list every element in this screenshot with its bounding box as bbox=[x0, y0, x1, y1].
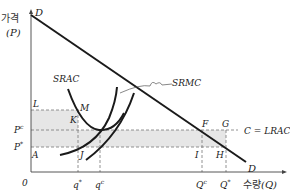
origin-label: 0 bbox=[22, 178, 28, 188]
label-lrac: C = LRAC bbox=[244, 126, 290, 136]
shaded-area-PcP* bbox=[31, 130, 226, 147]
point-L: L bbox=[32, 99, 39, 109]
tick-q-star: q* bbox=[73, 178, 82, 190]
price-pstar: P* bbox=[13, 140, 23, 152]
x-axis-label: 수량(Q) bbox=[243, 179, 277, 190]
label-D-top: D bbox=[34, 7, 43, 18]
tick-Q-star: Q* bbox=[220, 178, 230, 190]
point-A: A bbox=[31, 150, 39, 160]
tick-q-c: qc bbox=[95, 178, 105, 190]
point-J: J bbox=[78, 150, 85, 160]
tick-Q-c: Qc bbox=[196, 178, 207, 190]
point-I: I bbox=[194, 150, 199, 160]
point-M: M bbox=[79, 103, 90, 113]
point-H: H bbox=[215, 150, 224, 160]
srmc-pointer bbox=[120, 82, 172, 93]
price-pc: Pc bbox=[13, 123, 24, 135]
x-axis-arrow-icon bbox=[282, 170, 287, 174]
point-K: K bbox=[69, 115, 78, 125]
point-F: F bbox=[201, 119, 209, 129]
y-axis-label-sym: (P) bbox=[6, 27, 21, 38]
label-srac: SRAC bbox=[53, 74, 79, 84]
y-axis-label-kor: 가격 bbox=[1, 12, 19, 24]
srmc-curve-branch bbox=[86, 93, 134, 160]
point-G: G bbox=[222, 119, 229, 129]
label-srmc: SRMC bbox=[172, 78, 201, 88]
economics-diagram: 가격 (P) D D SRAC SRMC C = LRAC L M K A J … bbox=[0, 0, 290, 193]
label-D-bottom: D bbox=[247, 163, 256, 174]
y-axis-arrow-icon bbox=[29, 9, 33, 14]
